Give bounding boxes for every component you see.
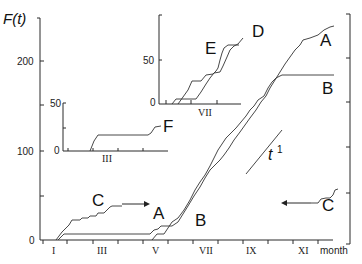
arrow-c-right-head [144, 201, 150, 207]
curve-b [152, 75, 334, 240]
x-tick-XI: XI [298, 245, 309, 256]
inset-left-x-III: III [102, 153, 112, 164]
inset-upper-y50: 50 [143, 55, 155, 66]
main-axes [37, 14, 350, 244]
x-axis-label: month [320, 245, 348, 256]
x-tick-V: V [152, 245, 160, 256]
slope-label-t: t [268, 146, 273, 163]
inset-upper-y0: 0 [150, 97, 156, 108]
y-tick-100: 100 [17, 146, 34, 157]
label-c-right: C [322, 196, 334, 215]
y-tick-200: 200 [17, 56, 34, 67]
label-f: F [163, 117, 173, 136]
x-tick-I: I [52, 245, 55, 256]
x-tick-III: III [97, 245, 107, 256]
x-tick-IX: IX [246, 245, 257, 256]
y-axis-label: F(t) [3, 10, 26, 27]
inset-upper: 50 0 VII E D [143, 15, 264, 118]
curve-f [90, 126, 161, 151]
inset-upper-x-VII: VII [198, 107, 212, 118]
y-tick-0: 0 [29, 235, 35, 246]
label-d: D [252, 22, 264, 41]
label-a-left: A [153, 204, 165, 223]
inset-left-y0: 0 [54, 145, 60, 156]
label-c-left: C [92, 191, 104, 210]
arrow-c-left-head [281, 200, 287, 206]
cumulative-chart: F(t) 200 100 0 I III V VII IX XI month t… [0, 0, 362, 264]
label-e: E [205, 39, 216, 58]
curve-c-left [56, 206, 122, 240]
inset-left-y50: 50 [50, 98, 62, 109]
label-b-right: B [322, 79, 333, 98]
x-tick-VII: VII [199, 245, 213, 256]
label-a-right: A [320, 31, 332, 50]
label-b-left: B [195, 211, 206, 230]
slope-label-sup: 1 [277, 144, 283, 155]
